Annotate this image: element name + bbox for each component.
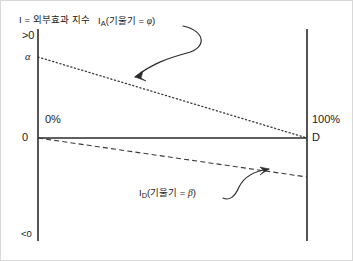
left-percent-label: 0% — [45, 114, 61, 125]
positive-region-label: >0 — [22, 30, 34, 41]
externality-diagram-svg — [1, 1, 353, 261]
negative-region-label: <0 — [21, 229, 32, 239]
ia-body: (기울기 = — [106, 15, 147, 26]
ia-annotation-label: IA(기울기 = φ) — [98, 16, 155, 27]
ia-dotted-line — [38, 57, 307, 138]
diagram-page: I = 외부효과 지수 >0 α 0 0% 100% D <0 IA(기울기 =… — [0, 0, 353, 261]
right-percent-label: 100% — [312, 114, 340, 125]
ia-suffix: ) — [152, 15, 155, 26]
origin-label: 0 — [22, 132, 28, 143]
axis-title: I = 외부효과 지수 — [19, 15, 90, 25]
id-dashed-line — [38, 138, 307, 177]
id-annotation-label: ID(기울기 = β) — [139, 188, 196, 199]
ia-arrow-curve — [135, 26, 201, 77]
ia-subscript: A — [101, 19, 106, 28]
id-suffix: ) — [193, 187, 196, 198]
id-subscript: D — [142, 191, 147, 200]
id-body: (기울기 = — [147, 187, 188, 198]
right-point-label: D — [312, 132, 320, 143]
alpha-intercept-label: α — [25, 52, 31, 63]
